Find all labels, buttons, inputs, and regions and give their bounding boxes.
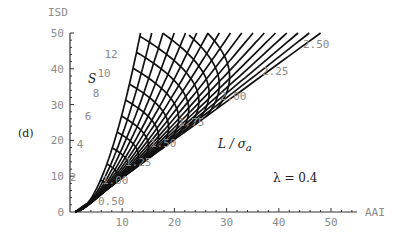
lambda-annotation: λ = 0.4 [273, 171, 318, 185]
s-curve-label: 6 [85, 110, 92, 123]
x-axis-title: AAI [365, 206, 385, 219]
panel-label: (d) [18, 127, 34, 140]
s-family-label: S [88, 72, 96, 86]
s-curve-label: 12 [104, 48, 117, 61]
s-curve-label: 4 [77, 138, 84, 151]
y-axis-title: ISD [48, 6, 68, 19]
y-tick-label: 10 [51, 170, 64, 183]
y-tick-label: 40 [51, 63, 64, 76]
l-curve-label: 1.25 [125, 156, 152, 169]
y-tick-label: 30 [51, 99, 64, 112]
x-tick-label: 50 [324, 216, 337, 229]
l-curve-label: 2.50 [303, 38, 330, 51]
l-curve-label: 0.50 [98, 195, 125, 208]
x-tick-label: 30 [220, 216, 233, 229]
l-curve-label: 2.25 [262, 65, 289, 78]
nomogram-chart: 102030405001020304050 ISD AAI (d) 246810… [0, 0, 406, 239]
s-curve-label: 10 [97, 67, 110, 80]
y-tick-label: 20 [51, 134, 64, 147]
l-family-label: L / σa [217, 137, 252, 153]
s-curve-label: 8 [93, 87, 100, 100]
x-tick-label: 20 [168, 216, 181, 229]
l-curve-label: 1.00 [102, 174, 129, 187]
x-tick-label: 10 [116, 216, 129, 229]
l-curve-label: 1.75 [178, 116, 205, 129]
l-curve-label: 1.50 [150, 137, 177, 150]
l-curve-label: 2.00 [220, 90, 247, 103]
y-tick-label: 0 [57, 206, 64, 219]
y-tick-label: 50 [51, 27, 64, 40]
s-curve-label: 2 [70, 171, 77, 184]
x-tick-label: 40 [272, 216, 285, 229]
